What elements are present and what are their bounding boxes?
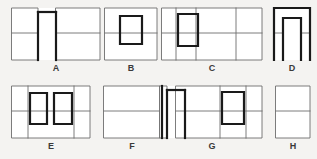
- figure-b: [105, 8, 157, 60]
- figure-label-a: A: [49, 63, 63, 73]
- figures-group: [12, 8, 310, 138]
- figure-label-b: B: [124, 63, 138, 73]
- figure-label-h: H: [286, 141, 300, 151]
- figure-label-c: C: [205, 63, 219, 73]
- figure-g-backdrop: [160, 86, 262, 138]
- figure-h-backdrop: [276, 86, 310, 138]
- figure-d-backdrop: [274, 8, 310, 60]
- figure-a: [12, 8, 100, 60]
- figure-f-backdrop: [104, 86, 160, 138]
- figure-h: [276, 86, 310, 138]
- figure-g: [160, 86, 262, 138]
- figure-e-backdrop: [12, 86, 90, 138]
- figures-canvas: [0, 0, 317, 159]
- figure-label-f: F: [125, 141, 139, 151]
- figure-label-e: E: [44, 141, 58, 151]
- figure-d: [274, 8, 310, 60]
- figure-label-g: G: [205, 141, 219, 151]
- figure-label-d: D: [285, 63, 299, 73]
- figure-e: [12, 86, 90, 138]
- figure-f: [104, 86, 160, 138]
- figure-sheet: ABCDEFGH: [0, 0, 317, 159]
- figure-c: [162, 8, 262, 60]
